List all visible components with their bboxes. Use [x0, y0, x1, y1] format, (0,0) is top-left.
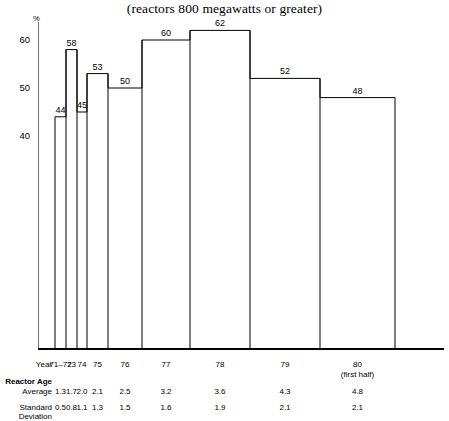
average-cell-73: 1.7 [66, 387, 77, 396]
year-cell-76: 76 [121, 360, 130, 369]
stddev-cell-78: 1.9 [214, 403, 225, 412]
bar-value-71-72: 44 [55, 105, 65, 115]
stddev-cell-71-72: 0.5 [55, 403, 66, 412]
average-row-label: Average [0, 387, 52, 396]
stddev-row-label-line1: Standard [0, 403, 52, 412]
stddev-cell-79: 2.1 [279, 403, 290, 412]
bar-value-76: 50 [120, 76, 130, 86]
year-cell-75: 75 [93, 360, 102, 369]
average-cell-80: 4.8 [352, 387, 363, 396]
year-cell-80: 80(first half) [341, 360, 374, 379]
average-cell-77: 3.2 [160, 387, 171, 396]
year-cell-73: 73 [67, 360, 76, 369]
stddev-cell-76: 1.5 [119, 403, 130, 412]
average-cell-79: 4.3 [279, 387, 290, 396]
stddev-cell-77: 1.6 [160, 403, 171, 412]
year-cell-74: 74 [78, 360, 87, 369]
stddev-cell-80: 2.1 [352, 403, 363, 412]
bar-value-80: 48 [352, 86, 362, 96]
bar-value-79: 52 [280, 66, 290, 76]
stddev-cell-73: 0.8 [66, 403, 77, 412]
average-cell-74: 2.0 [76, 387, 87, 396]
average-cell-71-72: 1.3 [55, 387, 66, 396]
year-cell-77: 77 [162, 360, 171, 369]
year-row-label: Year [0, 360, 52, 369]
year-cell-78: 78 [216, 360, 225, 369]
bar-value-75: 53 [92, 62, 102, 72]
bar-value-73: 58 [66, 38, 76, 48]
stddev-row-label-line2: Deviation [0, 412, 52, 421]
bar-value-78: 62 [215, 18, 225, 28]
stddev-cell-74: 1.1 [76, 403, 87, 412]
average-cell-75: 2.1 [92, 387, 103, 396]
average-cell-78: 3.6 [214, 387, 225, 396]
reactor-age-section-label: Reactor Age [0, 377, 52, 386]
bar-value-77: 60 [161, 28, 171, 38]
year-cell-79: 79 [281, 360, 290, 369]
bar-value-74: 45 [77, 100, 87, 110]
average-cell-76: 2.5 [119, 387, 130, 396]
stddev-cell-75: 1.3 [92, 403, 103, 412]
step-outline [55, 30, 395, 348]
